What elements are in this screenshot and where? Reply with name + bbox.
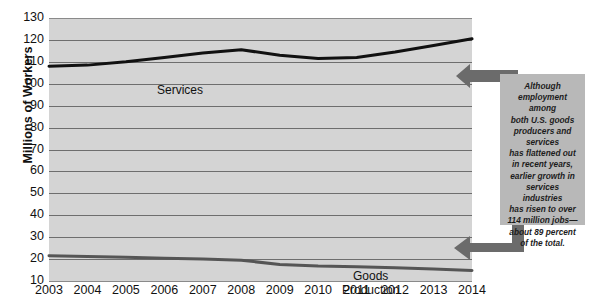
y-tick-label-60: 60 [2, 164, 44, 177]
y-tick-label-80: 80 [2, 121, 44, 134]
callout-line-5: has flattened out [505, 148, 580, 159]
y-tick-label-90: 90 [2, 99, 44, 112]
callout-line-6: in recent years, [505, 159, 580, 170]
callout-line-2: both U.S. goods [505, 115, 580, 126]
callout-line-10: 114 million jobs— [505, 215, 580, 226]
callout-line-3: producers and [505, 126, 580, 137]
y-tick-label-130: 130 [2, 11, 44, 24]
y-tick-label-100: 100 [2, 77, 44, 90]
series-label-services: Services [157, 83, 203, 97]
series-layer [49, 18, 472, 281]
y-tick-label-110: 110 [2, 55, 44, 68]
callout-line-0: Although [505, 81, 580, 92]
y-tick-label-30: 30 [2, 230, 44, 243]
callout-line-12: of the total. [505, 238, 580, 249]
y-tick-label-120: 120 [2, 33, 44, 46]
callout-line-11: about 89 percent [505, 227, 580, 238]
y-tick-label-20: 20 [2, 252, 44, 265]
callout-line-1: employment among [505, 92, 580, 114]
y-axis-tick-labels: 130120110100908070605040302010 [0, 0, 49, 301]
series-line-goods-production [49, 256, 472, 271]
y-tick-label-70: 70 [2, 143, 44, 156]
callout-note: Althoughemployment amongboth U.S. goodsp… [500, 74, 585, 225]
callout-line-7: earlier growth in [505, 171, 580, 182]
y-tick-label-40: 40 [2, 208, 44, 221]
plot-area: Services Goods Production [49, 18, 472, 281]
callout-line-9: has risen to over [505, 204, 580, 215]
chart-root: Millions of Workers 13012011010090807060… [0, 0, 592, 301]
callout-line-8: services industries [505, 182, 580, 204]
y-tick-label-50: 50 [2, 186, 44, 199]
gridline-10 [49, 281, 472, 282]
callout-line-4: services [505, 137, 580, 148]
series-line-services [49, 39, 472, 66]
